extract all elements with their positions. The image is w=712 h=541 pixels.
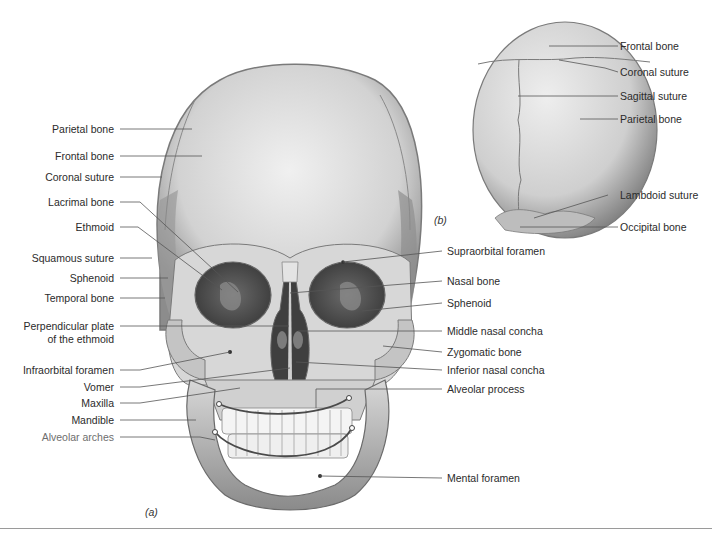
label-b-occipital-bone: Occipital bone	[620, 221, 687, 233]
label-inferior-nasal-concha: Inferior nasal concha	[447, 364, 544, 376]
label-b-frontal-bone: Frontal bone	[620, 40, 679, 52]
bottom-divider	[0, 528, 712, 529]
label-supraorbital-foramen: Supraorbital foramen	[447, 245, 545, 257]
label-perpendicular-plate-line2: of the ethmoid	[0, 333, 114, 345]
label-squamous-suture: Squamous suture	[0, 252, 114, 264]
panel-b-label: (b)	[434, 214, 447, 226]
skull-figure: Parietal bone Frontal bone Coronal sutur…	[0, 0, 712, 541]
superior-skull	[473, 22, 657, 238]
label-vomer: Vomer	[0, 381, 114, 393]
label-alveolar-arches: Alveolar arches	[0, 431, 114, 443]
label-middle-nasal-concha: Middle nasal concha	[447, 325, 543, 337]
label-mandible: Mandible	[0, 414, 114, 426]
label-zygomatic-bone: Zygomatic bone	[447, 346, 522, 358]
label-alveolar-process: Alveolar process	[447, 383, 525, 395]
label-b-lambdoid-suture: Lambdoid suture	[620, 189, 698, 201]
skull-illustration	[0, 0, 712, 541]
label-parietal-bone: Parietal bone	[0, 123, 114, 135]
label-frontal-bone: Frontal bone	[0, 150, 114, 162]
label-coronal-suture: Coronal suture	[0, 171, 114, 183]
label-sphenoid-right: Sphenoid	[447, 297, 491, 309]
label-b-sagittal-suture: Sagittal suture	[620, 90, 687, 102]
anterior-skull	[157, 64, 421, 510]
label-b-coronal-suture: Coronal suture	[620, 66, 689, 78]
label-maxilla: Maxilla	[0, 397, 114, 409]
label-ethmoid: Ethmoid	[0, 221, 114, 233]
label-infraorbital-foramen: Infraorbital foramen	[0, 364, 114, 376]
label-b-parietal-bone: Parietal bone	[620, 113, 682, 125]
label-lacrimal-bone: Lacrimal bone	[0, 196, 114, 208]
label-sphenoid-left: Sphenoid	[0, 272, 114, 284]
label-nasal-bone: Nasal bone	[447, 275, 500, 287]
label-temporal-bone: Temporal bone	[0, 292, 114, 304]
label-mental-foramen: Mental foramen	[447, 472, 520, 484]
label-perpendicular-plate-line1: Perpendicular plate	[0, 320, 114, 332]
panel-a-label: (a)	[145, 506, 158, 518]
